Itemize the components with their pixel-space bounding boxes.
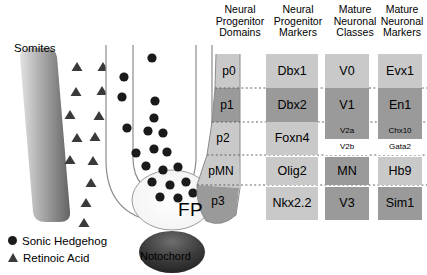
legend-label: Sonic Hedgehog [22,235,107,247]
cell-neuronal-class-v2a: V2a [325,122,369,139]
cell-neuronal-marker-gata2: Gata2 [378,139,422,155]
header-line: Markers [374,27,427,39]
header-line: Markers [270,27,326,39]
triangle-icon [8,253,18,262]
somites-label: Somites [14,42,56,54]
circle-icon [8,236,17,245]
domain-label-p0: p0 [214,60,244,82]
cell-progenitor-marker-p0: Dbx1 [266,54,318,88]
header-line: Domains [212,27,268,39]
header-line: Mature [374,4,427,16]
cell-neuronal-class-v2b: V2b [325,139,369,155]
cell-neuronal-class-v3: V3 [325,187,369,220]
header-line: Neural [270,4,326,16]
cell-neuronal-class-mn: MN [325,157,369,185]
legend-item-sonic-hedgehog: Sonic Hedgehog [8,232,107,249]
diagram-root: Somites FP Notochord Sonic Hedgehog Reti… [0,0,427,275]
cell-neuronal-marker-chx10: Chx10 [378,122,422,139]
legend-item-retinoic-acid: Retinoic Acid [8,249,107,266]
cell-progenitor-marker-pmn: Olig2 [266,157,318,185]
domain-label-pmn: pMN [203,160,239,182]
retinoic-acid-gradient-field [65,62,109,227]
notochord-label: Notochord [140,250,191,262]
cell-progenitor-marker-p1: Dbx2 [266,88,318,122]
column-header-mature-neuronal-markers: Mature Neuronal Markers [374,4,427,39]
cell-progenitor-marker-p2: Foxn4 [266,122,318,155]
cell-neuronal-marker-hb9: Hb9 [378,157,422,185]
legend-label: Retinoic Acid [23,252,89,264]
floor-plate-label: FP [178,199,203,221]
column-header-neural-progenitor-domains: Neural Progenitor Domains [212,4,268,39]
header-line: Neural [212,4,268,16]
cell-neuronal-marker-sim1: Sim1 [378,187,422,220]
somites-shape [20,48,70,222]
cell-neuronal-marker-evx1: Evx1 [378,54,422,88]
legend: Sonic Hedgehog Retinoic Acid [8,232,107,266]
cell-neuronal-marker-en1: En1 [378,88,422,122]
domain-label-p1: p1 [212,94,242,116]
cell-neuronal-class-v1: V1 [325,88,369,122]
cell-progenitor-marker-p3: Nkx2.2 [266,187,318,220]
domain-label-p3: p3 [203,191,233,211]
domain-label-p2: p2 [208,127,238,149]
column-header-neural-progenitor-markers: Neural Progenitor Markers [270,4,326,39]
cell-neuronal-class-v0: V0 [325,54,369,88]
